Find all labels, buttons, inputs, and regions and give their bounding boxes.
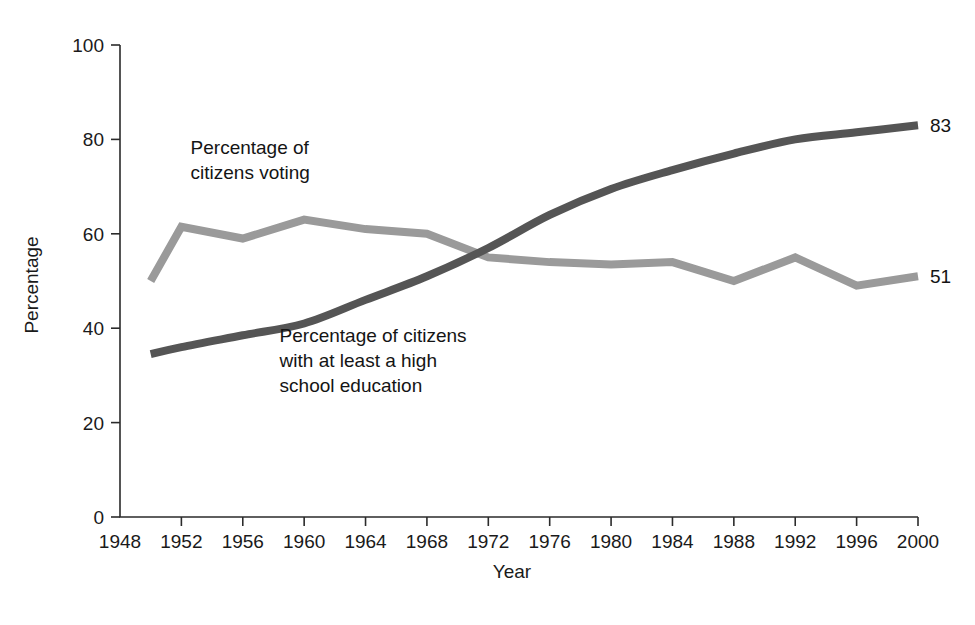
x-tick-label: 1952	[160, 531, 202, 552]
y-tick-label: 40	[83, 318, 104, 339]
y-tick-label: 60	[83, 224, 104, 245]
x-axis-title: Year	[493, 561, 532, 582]
chart-page: 020406080100 194819521956196019641968197…	[0, 0, 975, 625]
x-tick-label: 1996	[835, 531, 877, 552]
voting-annotation-line-1: Percentage of	[191, 137, 310, 158]
y-tick-label: 100	[72, 35, 104, 56]
y-tick-label: 0	[93, 507, 104, 528]
series-end-label-2: 83	[930, 115, 951, 136]
x-tick-label: 1968	[406, 531, 448, 552]
x-tick-label: 2000	[897, 531, 939, 552]
x-tick-label: 1960	[283, 531, 325, 552]
y-tick-label: 20	[83, 413, 104, 434]
voting-annotation-line-2: citizens voting	[191, 162, 310, 183]
x-tick-label: 1948	[99, 531, 141, 552]
x-tick-label: 1988	[713, 531, 755, 552]
line-chart: 020406080100 194819521956196019641968197…	[0, 0, 975, 625]
education-annotation-line-1: Percentage of citizens	[280, 325, 467, 346]
education-annotation-line-2: with at least a high	[279, 350, 437, 371]
x-tick-label: 1972	[467, 531, 509, 552]
education-annotation-line-3: school education	[280, 375, 423, 396]
x-tick-label: 1964	[344, 531, 387, 552]
y-axis-title: Percentage	[21, 236, 42, 333]
series-end-label-1: 51	[930, 266, 951, 287]
x-tick-label: 1956	[222, 531, 264, 552]
x-tick-label: 1976	[529, 531, 571, 552]
x-tick-label: 1984	[651, 531, 694, 552]
x-tick-label: 1980	[590, 531, 632, 552]
x-tick-label: 1992	[774, 531, 816, 552]
y-tick-label: 80	[83, 129, 104, 150]
